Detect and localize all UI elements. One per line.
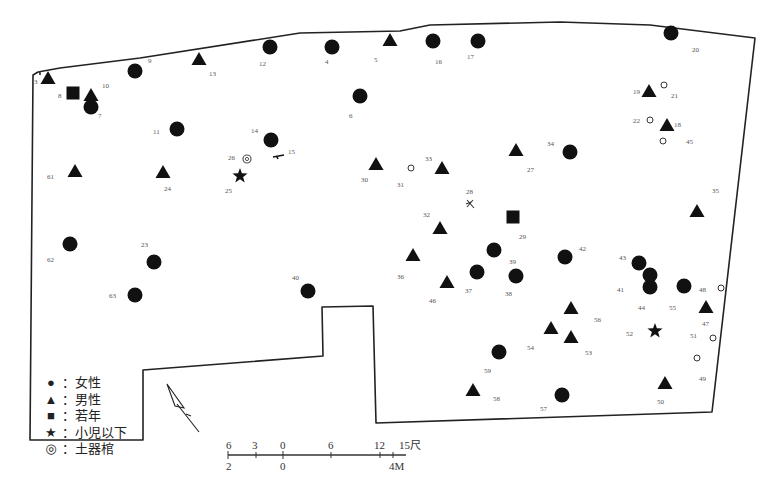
burial-feature-small-circle: 31 xyxy=(397,165,414,189)
feature-number-label: 52 xyxy=(626,330,634,338)
north-arrow-icon xyxy=(167,384,199,432)
male-triangle-icon xyxy=(433,221,448,234)
burial-feature-male: 54 xyxy=(527,321,559,352)
legend-label: ：土器棺 xyxy=(62,441,114,458)
female-circle-icon xyxy=(470,265,485,280)
feature-layer: 3810791312451617206192122184511141526256… xyxy=(34,26,724,414)
burial-feature-female: 62 xyxy=(47,237,78,265)
scale-top-tick: 6 xyxy=(328,439,334,451)
feature-number-label: 39 xyxy=(509,258,517,266)
feature-number-label: 18 xyxy=(674,121,682,129)
small-open-circle-icon xyxy=(694,355,700,361)
male-triangle-icon xyxy=(509,143,524,156)
burial-feature-female: 6 xyxy=(349,89,368,121)
feature-number-label: 19 xyxy=(633,88,641,96)
female-circle-icon xyxy=(677,279,692,294)
burial-feature-fragment: 15 xyxy=(273,148,296,159)
feature-number-label: 25 xyxy=(225,187,233,195)
burial-feature-female: 38 xyxy=(505,269,524,299)
female-circle-icon xyxy=(353,89,368,104)
fragment-x-icon xyxy=(466,200,474,208)
burial-feature-female: 9 xyxy=(128,57,153,79)
scale-bottom-tick: 0 xyxy=(280,460,286,472)
legend-item-urn-coffin: ◎ ：土器棺 xyxy=(44,441,127,458)
female-circle-icon xyxy=(471,34,486,49)
feature-number-label: 20 xyxy=(692,46,700,54)
feature-number-label: 41 xyxy=(617,286,625,294)
feature-number-label: 48 xyxy=(699,286,707,294)
child-star-icon xyxy=(647,323,662,338)
scale-bottom-tick: 2 xyxy=(226,460,232,472)
feature-number-label: 40 xyxy=(292,274,300,282)
male-triangle-icon xyxy=(660,118,675,131)
burial-feature-male: 53 xyxy=(564,330,593,357)
burial-feature-female: 23 xyxy=(141,241,162,270)
burial-feature-male: 18 xyxy=(660,118,682,131)
male-triangle-icon xyxy=(406,248,421,261)
feature-number-label: 8 xyxy=(58,92,62,100)
burial-feature-urn-coffin: 26 xyxy=(228,154,251,163)
female-circle-icon xyxy=(643,268,658,283)
feature-number-label: 45 xyxy=(686,138,694,146)
legend: ● ：女性 ▲ ：男性 ■ ：若年 ★ ：小児以下 ◎ ：土器棺 xyxy=(44,375,127,458)
burial-feature-male: 46 xyxy=(429,275,455,305)
burial-feature-female: 55 xyxy=(669,279,692,313)
feature-number-label: 55 xyxy=(669,304,677,312)
small-open-circle-icon xyxy=(718,285,724,291)
male-triangle-icon xyxy=(383,33,398,46)
feature-number-label: 43 xyxy=(619,254,627,262)
burial-feature-female: 43 xyxy=(619,254,647,271)
burial-feature-child: 52 xyxy=(626,323,663,338)
feature-number-label: 11 xyxy=(153,128,160,136)
feature-number-label: 16 xyxy=(435,58,443,66)
feature-number-label: 32 xyxy=(423,211,431,219)
burial-feature-child: 25 xyxy=(225,168,248,195)
burial-feature-female: 37 xyxy=(465,265,485,296)
feature-number-label: 31 xyxy=(397,181,405,189)
female-circle-icon xyxy=(509,269,524,284)
female-circle-icon xyxy=(170,122,185,137)
burial-feature-youth: 8 xyxy=(58,87,80,101)
legend-item-child: ★ ：小児以下 xyxy=(44,425,127,442)
burial-feature-small-circle: 45 xyxy=(660,138,694,146)
feature-number-label: 4 xyxy=(325,58,329,66)
double-circle-icon: ◎ xyxy=(44,441,58,458)
feature-number-label: 30 xyxy=(361,176,369,184)
male-triangle-icon xyxy=(544,321,559,334)
feature-number-label: 33 xyxy=(425,155,433,163)
triangle-filled-icon: ▲ xyxy=(44,392,58,409)
burial-feature-female: 4 xyxy=(325,40,340,67)
burial-feature-male: 32 xyxy=(423,211,448,234)
feature-number-label: 47 xyxy=(702,320,710,328)
small-open-circle-icon xyxy=(408,165,414,171)
burial-feature-small-circle: 49 xyxy=(694,355,707,383)
scale-top-tick: 0 xyxy=(280,439,286,451)
circle-filled-icon: ● xyxy=(44,375,58,392)
male-triangle-icon xyxy=(690,204,705,217)
feature-number-label: 21 xyxy=(671,92,679,100)
feature-number-label: 36 xyxy=(397,273,405,281)
youth-square-icon xyxy=(507,211,520,224)
feature-number-label: 57 xyxy=(540,405,548,413)
burial-feature-male: 30 xyxy=(361,157,384,184)
feature-number-label: 46 xyxy=(429,297,437,305)
male-triangle-icon xyxy=(699,300,714,313)
burial-feature-female: 16 xyxy=(426,34,443,67)
scale-top-tick: 3 xyxy=(252,439,258,451)
feature-number-label: 53 xyxy=(585,349,593,357)
female-circle-icon xyxy=(263,40,278,55)
small-open-circle-icon xyxy=(661,82,667,88)
feature-number-label: 24 xyxy=(164,185,172,193)
burial-feature-female: 7 xyxy=(84,100,103,121)
feature-number-label: 17 xyxy=(467,53,475,61)
star-filled-icon: ★ xyxy=(44,425,58,442)
burial-feature-female: 59 xyxy=(484,345,507,376)
feature-number-label: 5 xyxy=(374,56,378,64)
male-triangle-icon xyxy=(68,164,83,177)
male-triangle-icon xyxy=(658,376,673,389)
female-circle-icon xyxy=(128,64,143,79)
feature-number-label: 15 xyxy=(288,148,296,156)
scale-top-tick: 12 xyxy=(374,439,385,451)
burial-feature-female: 40 xyxy=(292,274,316,299)
burial-feature-male: 47 xyxy=(699,300,714,328)
